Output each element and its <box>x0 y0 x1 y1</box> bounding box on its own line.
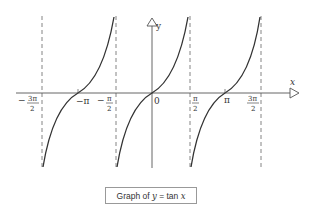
tan-branch-right <box>191 17 260 167</box>
tan-branch-center <box>117 17 188 167</box>
caption-eq: = tan <box>157 191 181 201</box>
tick-label-neg-pi-2-den: 2 <box>107 105 111 113</box>
tick-label-3pi-2-num: 3π <box>248 95 257 103</box>
tan-curves <box>43 17 260 167</box>
tick-label-neg-pi: −π <box>76 96 90 106</box>
tick-label-pi-2-den: 2 <box>193 105 197 113</box>
tan-graph: y x 0 − 3π 2 −π − π 2 π 2 π 3π 2 <box>0 0 314 213</box>
origin-label: 0 <box>154 96 160 106</box>
x-axis-arrow-icon <box>290 88 299 98</box>
caption-arg: x <box>181 191 186 201</box>
asymptotes <box>42 16 261 168</box>
tick-label-pi-2-num: π <box>193 95 198 103</box>
x-axis-label: x <box>290 77 295 87</box>
tick-label-neg-3pi-2-num: 3π <box>28 95 37 103</box>
caption-prefix: Graph of <box>117 191 150 201</box>
tick-label-3pi-2-den: 2 <box>251 105 255 113</box>
chart-caption: Graph of y = tan x <box>105 187 197 204</box>
y-axis-label: y <box>155 21 162 31</box>
tan-branch-left <box>43 17 114 167</box>
tick-label-neg-pi-2-minus: − <box>97 95 105 105</box>
tick-label-neg-pi-2-num: π <box>107 95 112 103</box>
tick-label-neg-3pi-2-minus: − <box>18 95 26 105</box>
tick-label-pi: π <box>224 95 230 105</box>
tick-label-neg-3pi-2-den: 2 <box>30 105 34 113</box>
